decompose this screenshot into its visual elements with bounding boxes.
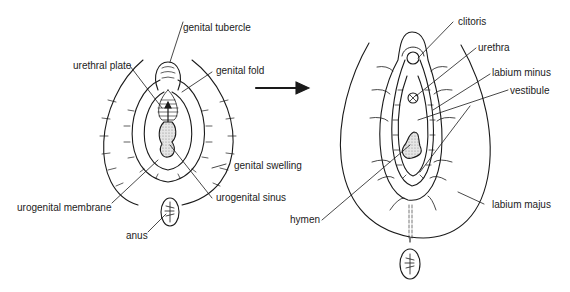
right-arrow-icon <box>256 82 309 94</box>
hymen-outline <box>402 132 421 158</box>
label-urogenital-sinus: urogenital sinus <box>216 192 286 204</box>
right-figure <box>322 22 508 279</box>
label-clitoris: clitoris <box>458 16 486 28</box>
label-vestibule: vestibule <box>510 85 549 97</box>
label-anus: anus <box>126 230 148 242</box>
clitoris-outline <box>407 52 419 64</box>
embryology-diagram: genital tubercle urethral plate genital … <box>0 0 570 292</box>
label-genital-tubercle: genital tubercle <box>183 22 251 34</box>
label-genital-fold: genital fold <box>216 65 264 77</box>
label-genital-swelling: genital swelling <box>234 160 302 172</box>
label-urethra: urethra <box>478 42 510 54</box>
label-hymen: hymen <box>290 214 320 226</box>
label-labium-majus: labium majus <box>492 199 551 211</box>
label-labium-minus: labium minus <box>492 67 551 79</box>
genital-swelling-right-outline <box>182 60 233 205</box>
label-urethral-plate: urethral plate <box>73 60 131 72</box>
vestibule-outline <box>398 76 428 176</box>
genital-swelling-left-outline <box>104 60 143 205</box>
label-urogenital-membrane: urogenital membrane <box>17 202 112 214</box>
